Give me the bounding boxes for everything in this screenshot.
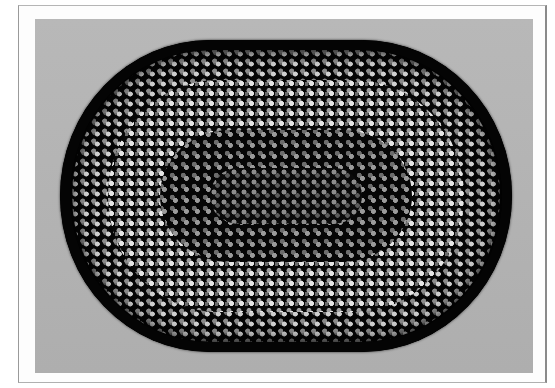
rug-center-braid bbox=[210, 168, 362, 224]
photo-backdrop bbox=[35, 19, 533, 373]
braided-rug bbox=[60, 40, 512, 352]
